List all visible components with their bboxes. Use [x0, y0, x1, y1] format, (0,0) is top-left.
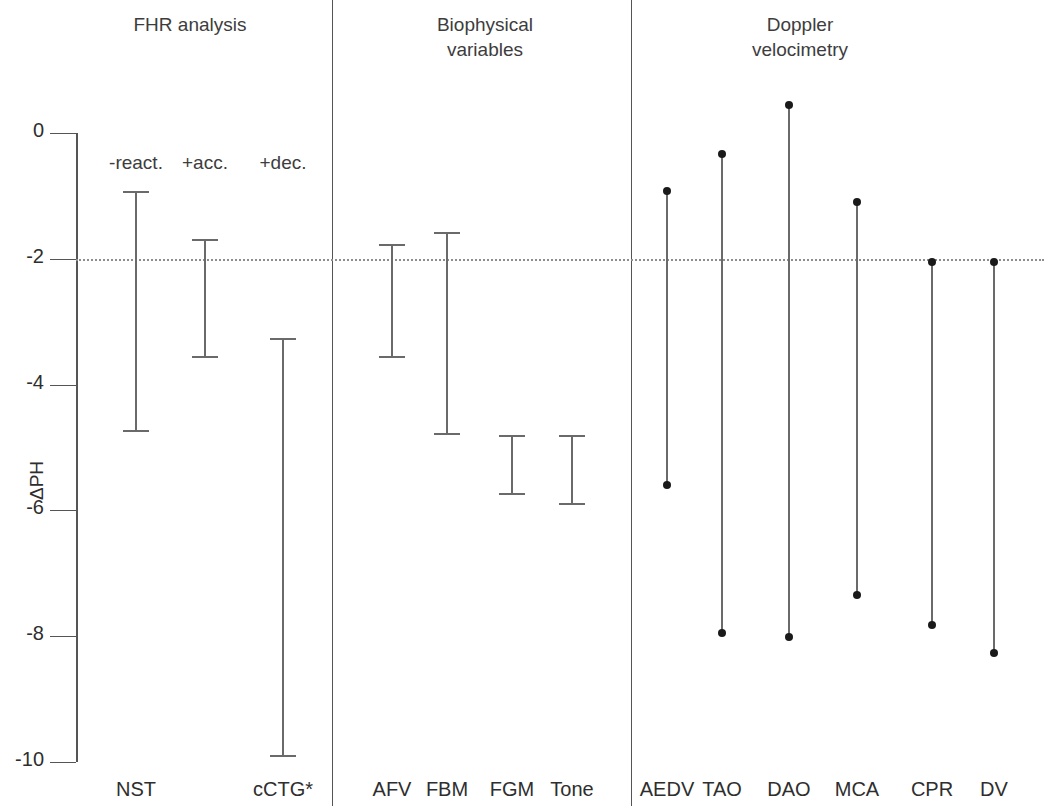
x-tick-label-NST: NST	[76, 778, 196, 801]
error-bar-MCA-dot-top	[853, 198, 861, 206]
error-bar-CPR	[931, 262, 933, 625]
error-bar-+acc.-cap-bottom	[192, 356, 218, 358]
error-bar-TAO	[721, 154, 723, 633]
error-bar-DAO	[788, 105, 790, 638]
error-bar-DAO-dot-top	[785, 101, 793, 109]
error-bar-FGM-cap-bottom	[499, 493, 525, 495]
error-bar-AEDV	[666, 191, 668, 485]
error-bar-AFV	[391, 244, 393, 357]
y-tick-0	[50, 133, 76, 134]
error-bar-Tone-cap-bottom	[559, 503, 585, 505]
y-tick-5	[50, 762, 76, 763]
error-bar-TAO-dot-top	[718, 150, 726, 158]
error-bar-CPR-dot-bottom	[928, 621, 936, 629]
error-bar-Tone	[571, 435, 573, 505]
error-bar-DV-dot-top	[990, 258, 998, 266]
section-divider-2	[631, 0, 632, 806]
y-tick-4	[50, 636, 76, 637]
group-label-2: +dec.	[223, 152, 343, 174]
error-bar-NST-cap-bottom	[123, 430, 149, 432]
section-title-fhr: FHR analysis	[60, 12, 320, 37]
error-bar-NST-cap-top	[123, 191, 149, 193]
y-tick-label-1: -2	[0, 245, 44, 268]
error-bar-cCTG*-cap-bottom	[270, 755, 296, 757]
error-bar-DAO-dot-bottom	[785, 633, 793, 641]
x-tick-label-cCTG: cCTG*	[223, 778, 343, 801]
x-tick-label-DV: DV	[934, 778, 1044, 801]
y-axis-line	[76, 133, 78, 762]
y-tick-label-4: -8	[0, 622, 44, 645]
reference-line	[76, 259, 1044, 261]
y-tick-label-0: 0	[0, 119, 44, 142]
y-tick-1	[50, 259, 76, 260]
y-tick-label-2: -4	[0, 371, 44, 394]
error-bar-Tone-cap-top	[559, 435, 585, 437]
error-bar-FBM-cap-bottom	[434, 433, 460, 435]
error-bar-AFV-cap-bottom	[379, 356, 405, 358]
error-bar-cCTG*-cap-top	[270, 338, 296, 340]
error-bar-FBM-cap-top	[434, 232, 460, 234]
error-bar-MCA	[856, 202, 858, 595]
error-bar-AFV-cap-top	[379, 244, 405, 246]
y-tick-label-5: -10	[0, 748, 44, 771]
error-bar-cCTG*	[282, 338, 284, 757]
error-bar-+acc.-cap-top	[192, 239, 218, 241]
error-bar-CPR-dot-top	[928, 258, 936, 266]
y-tick-2	[50, 385, 76, 386]
error-bar-MCA-dot-bottom	[853, 591, 861, 599]
error-bar-NST	[135, 191, 137, 432]
section-title-doppler: Doppler velocimetry	[650, 12, 950, 62]
error-bar-DV	[993, 262, 995, 653]
error-bar-DV-dot-bottom	[990, 649, 998, 657]
error-bar-AEDV-dot-bottom	[663, 481, 671, 489]
error-bar-AEDV-dot-top	[663, 187, 671, 195]
error-bar-FGM	[511, 435, 513, 495]
section-divider-1	[332, 0, 333, 806]
error-bar-TAO-dot-bottom	[718, 629, 726, 637]
error-bar-FBM	[446, 232, 448, 435]
error-bar-+acc.	[204, 239, 206, 357]
error-bar-FGM-cap-top	[499, 435, 525, 437]
y-tick-3	[50, 510, 76, 511]
y-axis-label: ΔPH	[26, 461, 48, 500]
chart-canvas: FHR analysisBiophysical variablesDoppler…	[0, 0, 1044, 806]
section-title-biophys: Biophysical variables	[350, 12, 620, 62]
